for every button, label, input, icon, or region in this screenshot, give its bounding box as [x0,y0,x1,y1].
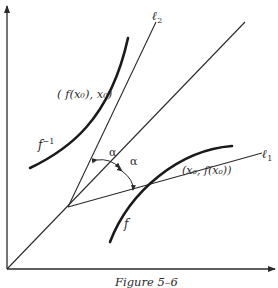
label-l1: ℓ1 [262,147,272,163]
tangent-line-l1 [68,153,262,207]
label-l2: ℓ2 [152,9,162,25]
tangent-line-l2 [68,22,156,207]
label-point-inverse: ( f(x₀), x₀) [57,87,112,101]
label-f: f [123,217,131,231]
label-f-inverse: f−1 [37,137,54,152]
label-point-f: (x₀, f(x₀)) [182,164,231,177]
angle-arc-bottom [122,171,133,190]
label-alpha-top: α [109,146,117,159]
figure-caption: Figure 5–6 [114,275,178,288]
figure-diagram: ℓ2 ℓ1 ( f(x₀), x₀) (x₀, f(x₀)) f−1 f α α… [0,0,278,288]
label-alpha-bottom: α [130,155,138,168]
